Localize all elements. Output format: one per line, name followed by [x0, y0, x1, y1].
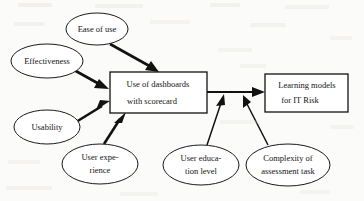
node-user-education-level[interactable]: User educa- tion level — [163, 145, 239, 185]
node-label-usability: Usability — [31, 122, 63, 132]
node-label-learning-models-line1: Learning models — [278, 80, 335, 90]
edge-ease-of-use-to-dashboards — [110, 44, 159, 72]
edge-line — [110, 44, 153, 68]
concept-map-svg: Ease of use Effectiveness Usability User… — [0, 0, 364, 201]
node-label-dashboards-line2: with scorecard — [127, 96, 178, 106]
node-label-effectiveness: Effectiveness — [24, 56, 70, 66]
arrow-head-icon — [216, 94, 225, 106]
node-use-of-dashboards-with-scorecard[interactable]: Use of dashboards with scorecard — [110, 72, 207, 113]
edge-user-education-level-to-connector — [207, 94, 225, 145]
edge-dashboards-to-learning-models — [207, 87, 265, 97]
node-label-complexity-line2: assessment task — [261, 166, 315, 176]
edge-effectiveness-to-dashboards — [74, 70, 109, 89]
arrow-head-icon — [114, 112, 126, 123]
node-effectiveness[interactable]: Effectiveness — [11, 44, 83, 78]
diagram-canvas: Ease of use Effectiveness Usability User… — [0, 0, 364, 201]
arrow-head-icon — [96, 100, 110, 110]
edge-usability-to-dashboards — [76, 100, 110, 122]
node-label-user-education-level-line1: User educa- — [181, 153, 222, 163]
node-label-user-experience-line1: User expe- — [81, 152, 118, 162]
arrow-head-icon — [145, 61, 159, 72]
node-complexity-of-assessment-task[interactable]: Complexity of assessment task — [246, 144, 330, 186]
node-label-complexity-line1: Complexity of — [263, 153, 313, 163]
edge-user-experience-to-dashboards — [104, 112, 126, 144]
node-label-user-experience-line2: rience — [90, 165, 111, 175]
node-label-user-education-level-line2: tion level — [185, 166, 218, 176]
node-usability[interactable]: Usability — [14, 110, 80, 144]
edge-line — [207, 103, 221, 145]
node-label-ease-of-use: Ease of use — [78, 24, 117, 34]
node-label-learning-models-line2: for IT Risk — [281, 95, 319, 105]
node-ease-of-use[interactable]: Ease of use — [66, 13, 128, 45]
edge-complexity-of-assessment-task-to-connector — [243, 95, 268, 145]
arrow-head-icon — [243, 95, 251, 108]
arrow-head-icon — [94, 79, 109, 89]
node-learning-models-for-it-risk[interactable]: Learning models for IT Risk — [265, 74, 348, 112]
node-user-experience[interactable]: User expe- rience — [62, 144, 138, 184]
node-label-dashboards-line1: Use of dashboards — [127, 79, 190, 89]
arrow-head-icon — [252, 87, 265, 97]
